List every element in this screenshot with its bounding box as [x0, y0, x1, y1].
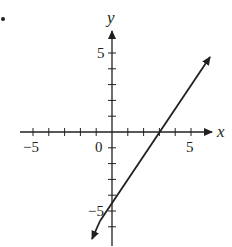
y-tick-label-5: 5	[97, 45, 105, 61]
y-tick-label-neg5: −5	[88, 203, 104, 219]
y-axis-label: y	[105, 8, 115, 27]
x-tick-label-5: 5	[186, 139, 194, 155]
problem-bullet-dot	[1, 17, 5, 21]
coordinate-plane: y x −5 0 5 5 −5	[0, 0, 232, 247]
x-tick-label-neg5: −5	[23, 139, 39, 155]
graphed-line	[100, 57, 210, 221]
x-axis-label: x	[216, 122, 225, 141]
graphed-line-lower-arrow	[92, 221, 100, 239]
x-tick-label-0: 0	[95, 139, 103, 155]
